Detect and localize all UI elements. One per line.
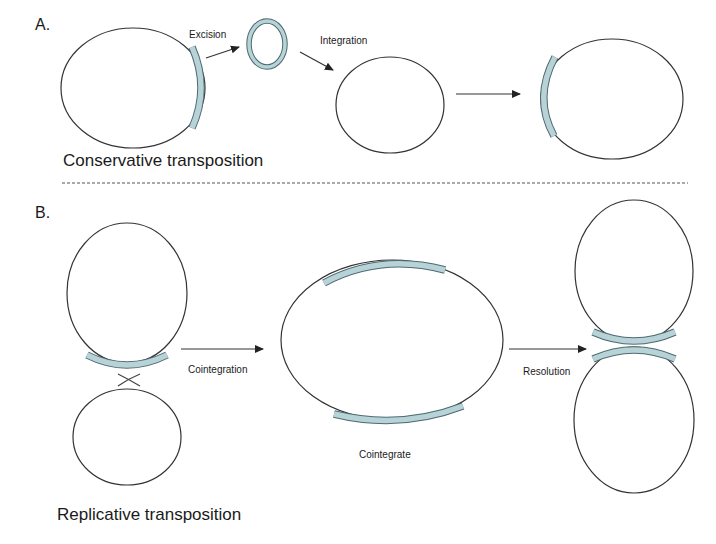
integration-label: Integration	[320, 35, 367, 46]
target-plasmid	[73, 389, 181, 485]
donor-plasmid	[67, 223, 187, 363]
product-plasmid	[541, 39, 683, 159]
target-plasmid	[336, 57, 444, 153]
resolution-label: Resolution	[523, 366, 570, 377]
panel-a: A. Excision Integration Conservative tra…	[35, 16, 683, 170]
excision-label: Excision	[189, 29, 226, 40]
donor-plasmid	[61, 28, 205, 148]
cointegrate-transposon-bottom	[334, 406, 463, 420]
panel-b: B. Cointegration Cointegrate Resolution …	[35, 200, 694, 524]
cointegration-label: Cointegration	[188, 364, 247, 375]
excision-arrow	[206, 47, 239, 58]
cointegrate-label: Cointegrate	[359, 449, 411, 460]
panel-a-title: Conservative transposition	[63, 151, 263, 170]
cointegrate-transposon-top	[324, 264, 445, 283]
panel-b-title: Replicative transposition	[57, 505, 241, 524]
crossover-mark-icon	[118, 374, 140, 386]
excised-transposon-circle	[249, 21, 285, 67]
panel-a-label: A.	[35, 16, 50, 33]
transposition-diagram: A. Excision Integration Conservative tra…	[0, 0, 716, 544]
panel-b-label: B.	[35, 204, 50, 221]
cointegrate-plasmid	[281, 260, 503, 420]
integration-arrow	[300, 52, 333, 70]
product-plasmid-top	[575, 200, 693, 342]
product-plasmid-bottom	[574, 347, 694, 493]
